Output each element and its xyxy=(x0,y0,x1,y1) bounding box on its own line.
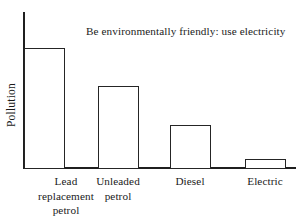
bar-electric xyxy=(245,159,286,169)
y-axis-label-container: Pollution xyxy=(0,50,22,160)
chart-title: Be environmentally friendly: use electri… xyxy=(86,25,304,38)
bar-diesel xyxy=(170,125,211,169)
bar-chart: Be environmentally friendly: use electri… xyxy=(0,0,304,218)
bar-lead-replacement-petrol xyxy=(24,48,65,169)
y-axis-label: Pollution xyxy=(5,83,17,127)
x-axis-label-electric: Electric xyxy=(210,174,304,189)
bar-unleaded-petrol xyxy=(98,86,139,169)
